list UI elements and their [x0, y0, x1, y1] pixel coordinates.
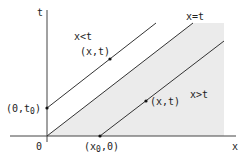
t-axis-label: t [37, 7, 43, 18]
diagonal-label: x=t [186, 11, 204, 22]
characteristic-diagram: t x 0 x=t x<t x>t (x,t) (x,t) (0,t0) (x0… [0, 0, 250, 157]
x-axis-label: x [232, 141, 238, 152]
upper-point-label: (x,t) [80, 46, 110, 57]
lower-point-label: (x,t) [150, 96, 180, 107]
upper-region-label: x<t [74, 31, 92, 42]
t-intercept-dot [45, 106, 48, 109]
x-intercept-label: (x0,0) [84, 141, 119, 154]
t-intercept-label: (0,t0) [6, 103, 41, 116]
x-intercept-dot [98, 134, 101, 137]
lower-point-dot [144, 99, 147, 102]
lower-region-label: x>t [190, 89, 208, 100]
origin-label: 0 [36, 141, 42, 152]
upper-point-dot [108, 57, 111, 60]
